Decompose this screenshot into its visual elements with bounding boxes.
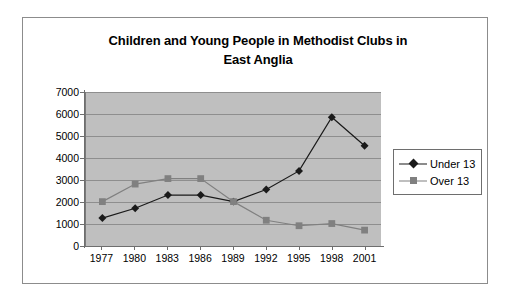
y-axis-tick-mark bbox=[80, 114, 84, 115]
y-axis-tick-mark bbox=[80, 92, 84, 93]
x-axis-tick-label: 1998 bbox=[320, 252, 343, 264]
x-axis-tick-mark bbox=[365, 246, 366, 250]
x-axis-tick-mark bbox=[233, 246, 234, 250]
legend-label-under-13: Under 13 bbox=[428, 158, 475, 170]
x-axis-tick-label: 1983 bbox=[156, 252, 179, 264]
y-axis-tick-labels: 70006000500040003000200010000 bbox=[31, 18, 79, 283]
legend-label-over-13: Over 13 bbox=[428, 175, 469, 187]
data-point bbox=[361, 227, 368, 234]
chart-frame: Children and Young People in Methodist C… bbox=[22, 17, 488, 284]
y-axis-tick-mark bbox=[80, 158, 84, 159]
y-axis-tick-label: 7000 bbox=[35, 86, 79, 98]
data-point bbox=[197, 191, 205, 199]
x-axis-tick-label: 1995 bbox=[287, 252, 310, 264]
chart-title: Children and Young People in Methodist C… bbox=[63, 32, 453, 70]
x-axis-tick-label: 1977 bbox=[90, 252, 113, 264]
y-axis-tick-mark bbox=[80, 136, 84, 137]
x-axis-tick-mark bbox=[167, 246, 168, 250]
plot-area bbox=[85, 92, 381, 246]
legend-marker-diamond-icon bbox=[398, 158, 428, 170]
data-point bbox=[164, 191, 172, 199]
data-point bbox=[165, 175, 172, 182]
data-point bbox=[263, 217, 270, 224]
y-axis-tick-label: 6000 bbox=[35, 108, 79, 120]
chart-title-line-1: Children and Young People in Methodist C… bbox=[109, 33, 408, 48]
data-point bbox=[230, 198, 237, 205]
x-axis-tick-mark bbox=[332, 246, 333, 250]
y-axis-tick-label: 2000 bbox=[35, 196, 79, 208]
data-point bbox=[132, 181, 139, 188]
series-canvas bbox=[86, 92, 381, 245]
y-axis-tick-mark bbox=[80, 246, 84, 247]
legend-item-under-13: Under 13 bbox=[398, 155, 475, 172]
x-axis-tick-labels: 197719801983198619891992199519982001 bbox=[85, 252, 381, 272]
y-axis-tick-label: 4000 bbox=[35, 152, 79, 164]
data-point bbox=[98, 214, 106, 222]
legend-marker-square-icon bbox=[398, 175, 428, 187]
x-axis-tick-mark bbox=[101, 246, 102, 250]
x-axis-tick-mark bbox=[299, 246, 300, 250]
x-axis-tick-label: 1980 bbox=[123, 252, 146, 264]
x-axis-tick-label: 2001 bbox=[353, 252, 376, 264]
data-point bbox=[131, 204, 139, 212]
legend-item-over-13: Over 13 bbox=[398, 172, 475, 189]
x-axis-tick-label: 1986 bbox=[188, 252, 211, 264]
chart-legend: Under 13 Over 13 bbox=[393, 149, 482, 195]
y-axis-tick-label: 0 bbox=[35, 240, 79, 252]
x-axis-tick-label: 1989 bbox=[221, 252, 244, 264]
data-point bbox=[197, 175, 204, 182]
data-point bbox=[99, 198, 106, 205]
x-axis-tick-mark bbox=[266, 246, 267, 250]
y-axis-tick-label: 3000 bbox=[35, 174, 79, 186]
y-axis-tick-mark bbox=[80, 224, 84, 225]
chart-title-line-2: East Anglia bbox=[223, 52, 292, 67]
data-point bbox=[328, 220, 335, 227]
x-axis-tick-label: 1992 bbox=[254, 252, 277, 264]
y-axis-tick-label: 1000 bbox=[35, 218, 79, 230]
data-point bbox=[262, 186, 270, 194]
y-axis-tick-label: 5000 bbox=[35, 130, 79, 142]
y-axis-tick-mark bbox=[80, 202, 84, 203]
y-axis-tick-mark bbox=[80, 180, 84, 181]
data-point bbox=[296, 222, 303, 229]
data-point bbox=[295, 167, 303, 175]
x-axis-tick-mark bbox=[200, 246, 201, 250]
x-axis-tick-mark bbox=[134, 246, 135, 250]
